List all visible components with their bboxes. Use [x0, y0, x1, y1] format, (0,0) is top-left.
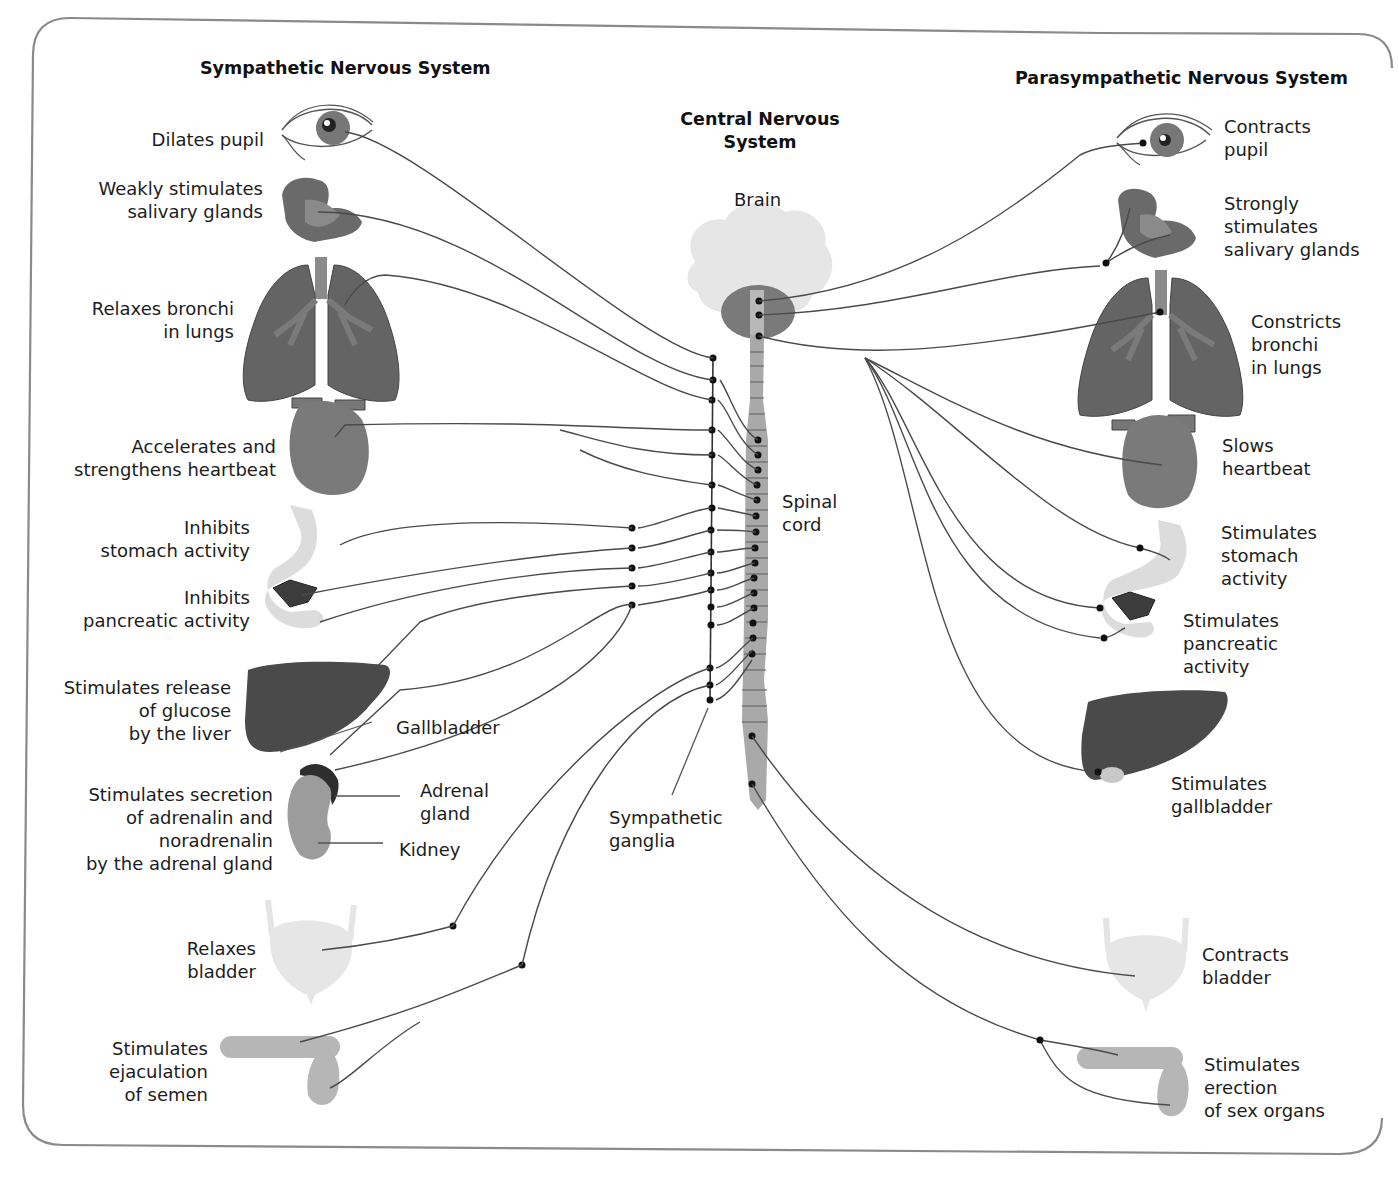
- parasympathetic-effect-stomach: Stimulates stomach activity: [1221, 521, 1317, 590]
- autonomic-nervous-system-diagram: Sympathetic Nervous System Parasympathet…: [0, 0, 1399, 1177]
- parasympathetic-header: Parasympathetic Nervous System: [1015, 67, 1348, 90]
- heart-icon-right: [1112, 415, 1197, 508]
- parasympathetic-effect-gallbladder: Stimulates gallbladder: [1171, 772, 1272, 818]
- parasympathetic-effect-heart: Slows heartbeat: [1222, 434, 1311, 480]
- parasympathetic-effect-salivary-glands: Strongly stimulates salivary glands: [1224, 192, 1360, 261]
- sympathetic-effect-lungs: Relaxes bronchi in lungs: [92, 297, 234, 343]
- sympathetic-effect-bladder: Relaxes bladder: [187, 937, 256, 983]
- sympathetic-effect-salivary-glands: Weakly stimulates salivary glands: [98, 177, 263, 223]
- sex-organs-icon-left: [220, 1036, 340, 1105]
- kidney-label: Kidney: [399, 838, 460, 861]
- salivary-glands-icon-left: [282, 178, 362, 242]
- sympathetic-effect-adrenal-gland: Stimulates secretion of adrenalin and no…: [86, 783, 273, 875]
- parasympathetic-effect-sex-organs: Stimulates erection of sex organs: [1204, 1053, 1325, 1122]
- heart-icon-left: [290, 398, 369, 495]
- bladder-icon-right: [1106, 918, 1186, 1012]
- sympathetic-effect-eye: Dilates pupil: [152, 128, 264, 151]
- parasympathetic-effect-bladder: Contracts bladder: [1202, 943, 1289, 989]
- stomach-icon-right: [1102, 520, 1187, 638]
- sympathetic-effect-pancreas: Inhibits pancreatic activity: [83, 586, 250, 632]
- sex-organs-icon-right: [1077, 1047, 1189, 1116]
- spinal-cord-icon: [742, 335, 768, 810]
- kidney-icon-left: [288, 775, 332, 859]
- parasympathetic-effect-pancreas: Stimulates pancreatic activity: [1183, 609, 1279, 678]
- brain-icon: [687, 203, 832, 340]
- eye-icon-left: [282, 105, 373, 160]
- sympathetic-effect-heart: Accelerates and strengthens heartbeat: [74, 435, 276, 481]
- sympathetic-ganglia-chain: [450, 298, 763, 969]
- parasympathetic-effect-eye: Contracts pupil: [1224, 115, 1311, 161]
- sympathetic-effect-liver: Stimulates release of glucose by the liv…: [64, 676, 231, 745]
- sympathetic-header: Sympathetic Nervous System: [200, 57, 491, 80]
- lungs-icon-right: [1078, 270, 1243, 416]
- salivary-glands-icon-right: [1118, 189, 1196, 258]
- pancreas-icon-right: [1112, 592, 1155, 620]
- gallbladder-label: Gallbladder: [396, 716, 500, 739]
- adrenal-gland-label: Adrenal gland: [420, 779, 489, 825]
- bladder-icon-left: [268, 900, 354, 1005]
- sympathetic-ganglia-label: Sympathetic ganglia: [609, 806, 723, 852]
- spinal-cord-label: Spinal cord: [782, 490, 837, 536]
- sympathetic-effect-stomach: Inhibits stomach activity: [101, 516, 250, 562]
- eye-icon-right: [1117, 114, 1212, 165]
- parasympathetic-effect-lungs: Constricts bronchi in lungs: [1251, 310, 1341, 379]
- stomach-icon-left: [265, 505, 323, 628]
- lungs-icon-left: [243, 257, 399, 401]
- sympathetic-effect-sex-organs: Stimulates ejaculation of semen: [109, 1037, 208, 1106]
- brain-label: Brain: [720, 188, 795, 211]
- central-nervous-system-header: Central Nervous System: [670, 108, 850, 154]
- liver-icon-right: [1081, 690, 1227, 783]
